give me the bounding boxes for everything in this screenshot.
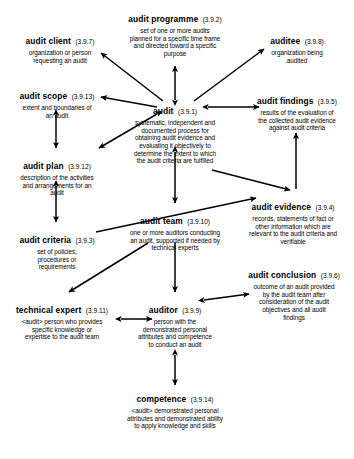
node-audit-plan[interactable]: audit plan (3.9.12) description of the a… [1, 155, 113, 197]
node-definition: one or more auditors conducting an audit… [106, 229, 244, 252]
node-term-line: audit plan (3.9.12) [1, 155, 113, 174]
definition-line: the audit criteria are fulfilled [112, 157, 238, 165]
definition-line: requirements [4, 263, 110, 271]
node-definition: set of policies, procedures or requireme… [4, 248, 110, 271]
node-term: auditor [149, 305, 178, 315]
node-ref: (3.9.6) [321, 272, 340, 279]
definition-line: outcome of an audit provided [235, 283, 353, 291]
node-ref: (3.9.4) [315, 204, 334, 211]
node-definition: organization or person requesting an aud… [6, 49, 114, 64]
definition-line: attributes and competence [123, 333, 227, 341]
node-term: audit criteria [19, 235, 71, 245]
node-definition: outcome of an audit provided by the audi… [235, 283, 353, 321]
node-ref: (3.9.10) [187, 218, 210, 225]
definition-line: an audit [2, 112, 112, 120]
node-audit[interactable]: audit (3.9.1) systematic, independent an… [112, 100, 238, 165]
definition-line: by the audit team after [235, 291, 353, 299]
concept-diagram: audit programme (3.9.2) set of one or mo… [0, 0, 354, 459]
definition-line: to apply knowledge and skills [100, 422, 250, 430]
node-term: audit programme [128, 14, 198, 24]
definition-line: extent and boundaries of [2, 104, 112, 112]
definition-line: technical experts [106, 244, 244, 252]
node-definition: systematic, independent and documented p… [112, 119, 238, 164]
definition-line: an audit, supported if needed by [106, 237, 244, 245]
definition-line: systematic, independent and [112, 119, 238, 127]
definition-line: person with the [123, 318, 227, 326]
node-term-line: audit (3.9.1) [112, 100, 238, 119]
definition-line: set of policies, [4, 248, 110, 256]
arrow-audit-team-to-audit-evidence [212, 170, 290, 190]
node-term-line: audit team (3.9.10) [106, 210, 244, 229]
definition-line: audit [1, 189, 113, 197]
definition-line: results of the evaluation of [240, 109, 354, 117]
definition-line: organization being [245, 49, 349, 57]
definition-line: <audit> demonstrated personal [100, 407, 250, 415]
node-ref: (3.9.12) [68, 163, 91, 170]
node-audit-client[interactable]: audit client (3.9.7) organization or per… [6, 30, 114, 64]
node-term: audit [153, 106, 174, 116]
node-term-line: audit scope (3.9.13) [2, 85, 112, 104]
definition-line: relevant to the audit criteria and [233, 230, 353, 238]
node-ref: (3.9.13) [72, 93, 95, 100]
node-competence[interactable]: competence (3.9.14) <audit> demonstrated… [100, 388, 250, 430]
node-technical-expert[interactable]: technical expert (3.9.11) <audit> person… [2, 299, 122, 341]
node-term-line: audit evidence (3.9.4) [233, 196, 353, 215]
node-term: competence [136, 394, 186, 404]
definition-line: specific knowledge or [2, 326, 122, 334]
node-audit-programme[interactable]: audit programme (3.9.2) set of one or mo… [104, 8, 246, 58]
node-ref: (3.9.11) [86, 307, 108, 314]
node-ref: (3.9.7) [75, 38, 94, 45]
definition-line: consideration of the audit [235, 298, 353, 306]
node-term: auditee [270, 36, 300, 46]
definition-line: set of one or more audits [104, 27, 246, 35]
node-definition: set of one or more audits planned for a … [104, 27, 246, 57]
node-ref: (3.9.2) [203, 16, 222, 23]
definition-line: documented process for [112, 127, 238, 135]
node-definition: person with the demonstrated personal at… [123, 318, 227, 348]
node-term: audit scope [20, 91, 68, 101]
definition-line: determine the extent to which [112, 150, 238, 158]
definition-line: findings [235, 314, 353, 322]
node-audit-criteria[interactable]: audit criteria (3.9.3) set of policies, … [4, 229, 110, 271]
definition-line: one or more auditors conducting [106, 229, 244, 237]
node-term: audit plan [23, 161, 64, 171]
node-term-line: audit programme (3.9.2) [104, 8, 246, 27]
definition-line: other information which are [233, 223, 353, 231]
node-audit-team[interactable]: audit team (3.9.10) one or more auditors… [106, 210, 244, 252]
definition-line: attributes and demonstrated ability [100, 415, 250, 423]
definition-line: demonstrated personal [123, 326, 227, 334]
definition-line: evaluating it objectively to [112, 142, 238, 150]
definition-line: purpose [104, 50, 246, 58]
node-audit-findings[interactable]: audit findings (3.9.5) results of the ev… [240, 90, 354, 132]
definition-line: records, statements of fact or [233, 215, 353, 223]
node-term-line: technical expert (3.9.11) [2, 299, 122, 318]
definition-line: description of the activities [1, 174, 113, 182]
node-auditor[interactable]: auditor (3.9.9) person with the demonstr… [123, 299, 227, 349]
node-term-line: audit client (3.9.7) [6, 30, 114, 49]
node-term-line: audit conclusion (3.9.6) [235, 264, 353, 283]
node-term-line: auditor (3.9.9) [123, 299, 227, 318]
node-audit-scope[interactable]: audit scope (3.9.13) extent and boundari… [2, 85, 112, 119]
node-term-line: auditee (3.9.8) [245, 30, 349, 49]
definition-line: and directed toward a specific [104, 42, 246, 50]
node-definition: extent and boundaries of an audit [2, 104, 112, 119]
node-definition: <audit> demonstrated personal attributes… [100, 407, 250, 430]
node-definition: results of the evaluation of the collect… [240, 109, 354, 132]
definition-line: audited [245, 57, 349, 65]
node-audit-evidence[interactable]: audit evidence (3.9.4) records, statemen… [233, 196, 353, 246]
node-term: audit team [140, 216, 183, 226]
node-ref: (3.9.1) [178, 108, 197, 115]
definition-line: procedures or [4, 256, 110, 264]
node-ref: (3.9.14) [191, 396, 214, 403]
definition-line: objectives and all audit [235, 306, 353, 314]
definition-line: the collected audit evidence [240, 117, 354, 125]
definition-line: requesting an audit [6, 57, 114, 65]
node-audit-conclusion[interactable]: audit conclusion (3.9.6) outcome of an a… [235, 264, 353, 321]
node-term: audit client [26, 36, 71, 46]
node-definition: records, statements of fact or other inf… [233, 215, 353, 245]
node-auditee[interactable]: auditee (3.9.8) organization being audit… [245, 30, 349, 64]
node-definition: description of the activities and arrang… [1, 174, 113, 197]
node-ref: (3.9.5) [318, 98, 337, 105]
definition-line: organization or person [6, 49, 114, 57]
node-term-line: audit findings (3.9.5) [240, 90, 354, 109]
